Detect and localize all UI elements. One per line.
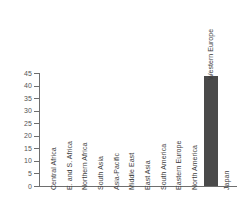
x-axis-category-label: E. and S. Africa bbox=[66, 141, 73, 190]
y-axis-tick bbox=[34, 98, 39, 99]
x-axis-category-label: Central Africa bbox=[50, 147, 57, 190]
y-axis-tick bbox=[34, 186, 39, 187]
y-axis-tick bbox=[34, 161, 39, 162]
x-axis-category-label: Middle East bbox=[128, 153, 135, 190]
y-axis-tick bbox=[34, 148, 39, 149]
y-axis-tick-label: 25 bbox=[6, 120, 32, 127]
y-axis-tick bbox=[34, 123, 39, 124]
y-axis-tick-label: 40 bbox=[6, 82, 32, 89]
y-axis-tick-label: 30 bbox=[6, 107, 32, 114]
y-axis-tick bbox=[34, 86, 39, 87]
x-axis-category-label: East Asia bbox=[144, 160, 151, 190]
x-axis-category-label: South Asia bbox=[97, 156, 104, 190]
bar-chart: 051015202530354045 Central AfricaE. and … bbox=[0, 0, 244, 200]
y-axis-tick-label: 35 bbox=[6, 95, 32, 102]
x-axis-category-label: Eastern Europe bbox=[175, 141, 182, 190]
bar bbox=[204, 76, 218, 186]
x-axis-category-label: Western Europe bbox=[207, 28, 214, 79]
y-axis-tick bbox=[34, 136, 39, 137]
x-axis-category-label: Northern Africa bbox=[81, 143, 88, 190]
y-axis-tick bbox=[34, 111, 39, 112]
y-axis-tick-label: 10 bbox=[6, 157, 32, 164]
y-axis-tick-label: 20 bbox=[6, 132, 32, 139]
x-axis-category-label: South America bbox=[160, 144, 167, 190]
y-axis-tick-label: 5 bbox=[6, 170, 32, 177]
x-axis-category-label: Japan bbox=[223, 171, 230, 190]
x-axis-category-label: Asia-Pacific bbox=[113, 153, 120, 190]
x-axis-category-label: North America bbox=[191, 145, 198, 190]
y-axis-tick-label: 0 bbox=[6, 183, 32, 190]
plot-area: 051015202530354045 Central AfricaE. and … bbox=[0, 0, 244, 200]
y-axis-tick-label: 15 bbox=[6, 145, 32, 152]
y-axis-tick-label: 45 bbox=[6, 70, 32, 77]
y-axis-line bbox=[39, 73, 40, 187]
y-axis-tick bbox=[34, 73, 39, 74]
y-axis-tick bbox=[34, 173, 39, 174]
